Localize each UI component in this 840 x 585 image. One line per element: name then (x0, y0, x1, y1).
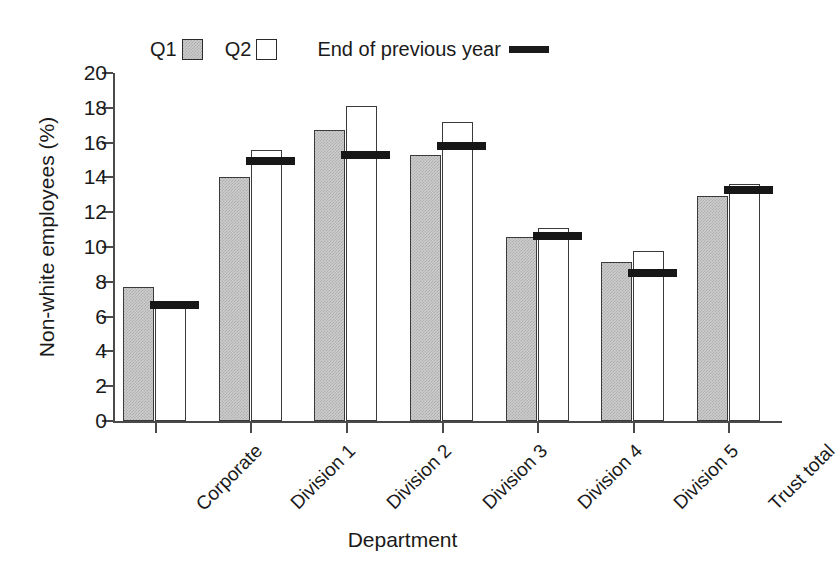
legend-swatch-q2-icon (256, 39, 277, 60)
reference-line-end-of-previous-year (724, 186, 773, 194)
y-tick-label: 8 (95, 270, 107, 294)
y-axis-title: Non-white employees (%) (35, 72, 59, 402)
legend-label-refline: End of previous year (317, 39, 500, 59)
y-tick-label: 2 (95, 374, 107, 398)
bar-q1[interactable] (697, 196, 728, 421)
bar-q2[interactable] (729, 184, 760, 422)
legend-line-refline-icon (509, 46, 549, 53)
legend-item-q1: Q1 (150, 39, 203, 60)
x-category-label: Division 4 (573, 440, 647, 514)
x-tick-mark (633, 421, 635, 433)
chart-legend: Q1 Q2 End of previous year (150, 36, 549, 62)
x-category-label: Division 2 (382, 440, 456, 514)
legend-label-q2: Q2 (225, 39, 252, 59)
x-category-label: Corporate (192, 440, 267, 515)
y-tick-label: 14 (84, 165, 107, 189)
x-tick-mark (728, 421, 730, 433)
x-tick-mark (155, 421, 157, 433)
legend-item-refline: End of previous year (317, 39, 548, 59)
legend-item-q2: Q2 (225, 39, 278, 60)
y-tick-label: 6 (95, 305, 107, 329)
x-axis-title: Department (0, 528, 805, 552)
x-category-label: Division 1 (286, 440, 360, 514)
y-tick-label: 16 (84, 131, 107, 155)
legend-swatch-q1-icon (182, 39, 203, 60)
y-tick-label: 20 (84, 61, 107, 85)
y-tick-label: 18 (84, 96, 107, 120)
y-tick-label: 10 (84, 235, 107, 259)
legend-label-q1: Q1 (150, 39, 177, 59)
bar-group (113, 73, 782, 421)
plot-area: 02468101214161820 (113, 73, 782, 421)
x-tick-mark (346, 421, 348, 433)
x-tick-mark (250, 421, 252, 433)
y-tick-label: 12 (84, 200, 107, 224)
x-category-label: Division 3 (478, 440, 552, 514)
x-tick-mark (442, 421, 444, 433)
x-category-label: Trust total (765, 440, 840, 515)
y-tick-label: 4 (95, 339, 107, 363)
x-category-label: Division 5 (669, 440, 743, 514)
y-tick-label: 0 (95, 409, 107, 433)
x-tick-mark (537, 421, 539, 433)
x-axis-line (113, 421, 782, 423)
